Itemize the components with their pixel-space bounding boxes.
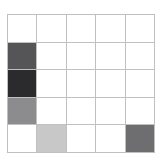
- heatmap-cell-r2-c4: [96, 43, 125, 71]
- heatmap-cell-r4-c2: [37, 98, 66, 126]
- heatmap-cell-r2-c1: [8, 43, 37, 71]
- heatmap-cell-r4-c3: [67, 98, 96, 126]
- heatmap-cell-r5-c4: [96, 125, 125, 153]
- heatmap-cell-r1-c4: [96, 15, 125, 43]
- heatmap-cell-r4-c4: [96, 98, 125, 126]
- heatmap-cell-r5-c2: [37, 125, 66, 153]
- heatmap-cell-r1-c3: [67, 15, 96, 43]
- heatmap-cell-r1-c1: [8, 15, 37, 43]
- heatmap-cell-r5-c3: [67, 125, 96, 153]
- heatmap-cell-r3-c3: [67, 70, 96, 98]
- heatmap-cell-r1-c5: [126, 15, 155, 43]
- heatmap-cell-r4-c1: [8, 98, 37, 126]
- heatmap-cell-r3-c2: [37, 70, 66, 98]
- heatmap-cell-r1-c2: [37, 15, 66, 43]
- heatmap-cell-r5-c5: [126, 125, 155, 153]
- heatmap-cell-r3-c4: [96, 70, 125, 98]
- heatmap-cell-r2-c3: [67, 43, 96, 71]
- heatmap-cell-r2-c2: [37, 43, 66, 71]
- heatmap-cell-r3-c5: [126, 70, 155, 98]
- heatmap-cell-r5-c1: [8, 125, 37, 153]
- heatmap-figure: [0, 0, 161, 159]
- heatmap-cell-r3-c1: [8, 70, 37, 98]
- heatmap-cell-r4-c5: [126, 98, 155, 126]
- heatmap-grid: [7, 14, 155, 153]
- heatmap-cell-r2-c5: [126, 43, 155, 71]
